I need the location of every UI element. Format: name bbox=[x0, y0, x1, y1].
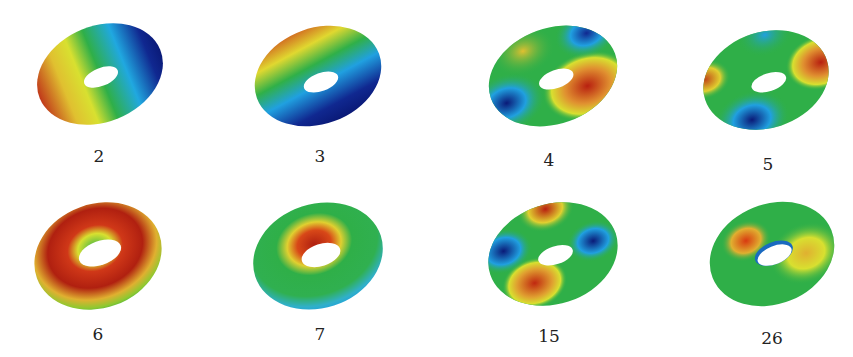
torus-eigenfunction-4 bbox=[465, 18, 645, 148]
torus-label: 6 bbox=[8, 324, 188, 344]
torus-label: 3 bbox=[230, 146, 410, 166]
torus-label: 5 bbox=[678, 154, 853, 174]
torus-eigenfunction-15 bbox=[465, 198, 645, 328]
torus-label: 4 bbox=[459, 150, 639, 170]
torus-label: 2 bbox=[9, 146, 189, 166]
torus-eigenfunction-3 bbox=[236, 18, 416, 148]
torus-eigenfunction-2 bbox=[10, 18, 190, 148]
torus-panel-6: 6 bbox=[10, 198, 210, 357]
torus-label: 26 bbox=[682, 328, 853, 348]
torus-eigenfunction-7 bbox=[236, 198, 416, 328]
torus-panel-15: 15 bbox=[465, 198, 665, 357]
torus-eigenfunction-5 bbox=[686, 18, 853, 148]
torus-eigenfunction-26 bbox=[690, 198, 853, 328]
torus-panel-2: 2 bbox=[10, 18, 210, 196]
torus-label: 7 bbox=[230, 324, 410, 344]
torus-panel-5: 5 bbox=[686, 18, 853, 196]
torus-panel-3: 3 bbox=[236, 18, 436, 196]
torus-eigenfunction-6 bbox=[10, 198, 190, 328]
torus-label: 15 bbox=[459, 326, 639, 346]
torus-panel-4: 4 bbox=[465, 18, 665, 196]
torus-panel-26: 26 bbox=[690, 198, 853, 357]
torus-panel-7: 7 bbox=[236, 198, 436, 357]
